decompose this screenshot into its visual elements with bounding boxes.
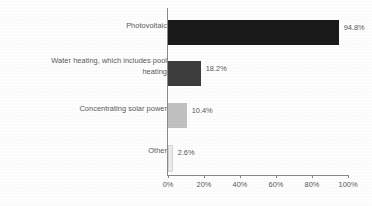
bar-concentrating-solar-power[interactable] [168, 103, 187, 128]
bar-value-label: 2.6% [178, 148, 195, 157]
bar-photovoltaic[interactable] [168, 20, 339, 45]
chart-row: Photovoltaic 94.8% [0, 12, 372, 54]
bar-value-label: 18.2% [206, 64, 227, 73]
x-axis-tick [168, 175, 169, 178]
x-axis-tick [276, 175, 277, 178]
bar-chart: Photovoltaic 94.8% Water heating, which … [0, 0, 372, 206]
x-axis-tick [312, 175, 313, 178]
bar-value-label: 94.8% [344, 23, 365, 32]
category-label: Water heating, which includes pool heati… [7, 56, 167, 77]
bar-water-heating[interactable] [168, 61, 201, 86]
category-label: Photovoltaic [7, 21, 167, 32]
category-label: Concentrating solar power [7, 104, 167, 115]
x-axis-tick-label: 40% [225, 180, 255, 190]
x-axis-tick-label: 60% [261, 180, 291, 190]
x-axis-tick-label: 100% [333, 180, 363, 190]
x-axis-tick-label: 20% [189, 180, 219, 190]
chart-row: Concentrating solar power 10.4% [0, 95, 372, 137]
x-axis-tick [240, 175, 241, 178]
category-label: Other [7, 146, 167, 157]
x-axis-tick-label: 0% [153, 180, 183, 190]
x-axis-tick [348, 175, 349, 178]
x-axis-tick [204, 175, 205, 178]
x-axis-tick-label: 80% [297, 180, 327, 190]
bar-value-label: 10.4% [192, 106, 213, 115]
chart-row: Water heating, which includes pool heati… [0, 53, 372, 95]
chart-row: Other 2.6% [0, 137, 372, 179]
bar-other[interactable] [168, 145, 173, 172]
